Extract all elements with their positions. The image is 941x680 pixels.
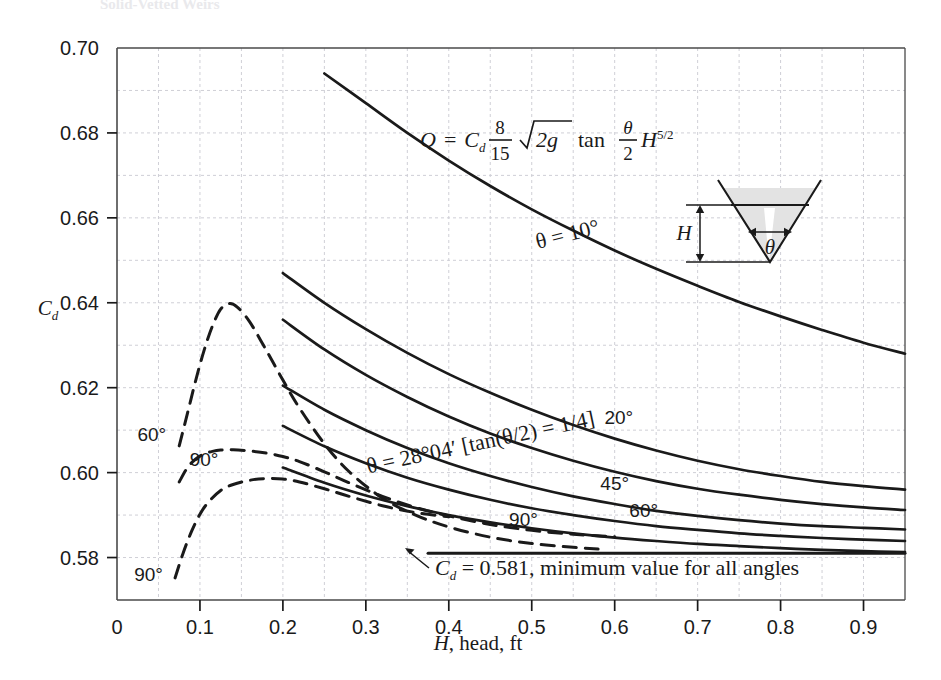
x-tick-label: 0.6 — [601, 616, 629, 638]
curve-label: 60° — [137, 424, 166, 445]
x-tick-label: 0.3 — [352, 616, 380, 638]
curve-label: 90° — [134, 564, 163, 585]
figure-stage: Solid-Vetted Weirs 0.580.600.620.640.660… — [0, 0, 941, 680]
svg-text:2g: 2g — [536, 127, 558, 152]
curve-theta-60-deg — [283, 426, 905, 541]
y-tick-label: 0.68 — [60, 122, 99, 144]
curve-label: 90° — [509, 509, 538, 530]
svg-text:H5/2: H5/2 — [640, 127, 674, 152]
svg-text:θ: θ — [623, 117, 632, 138]
y-tick-label: 0.58 — [60, 547, 99, 569]
x-tick-label: 0 — [111, 616, 122, 638]
x-tick-label: 0.7 — [684, 616, 712, 638]
inset-angle-label: θ — [765, 235, 775, 259]
y-tick-label: 0.70 — [60, 37, 99, 59]
y-tick-label: 0.64 — [60, 292, 99, 314]
y-tick-label: 0.66 — [60, 207, 99, 229]
svg-text:tan: tan — [578, 127, 605, 152]
curve-label: 45° — [600, 473, 629, 494]
svg-text:2: 2 — [623, 143, 633, 164]
x-tick-label: 0.9 — [850, 616, 878, 638]
svg-text:8: 8 — [495, 117, 505, 138]
y-axis-label: Cd — [38, 296, 59, 323]
x-tick-label: 0.8 — [767, 616, 795, 638]
inset-height-label: H — [675, 221, 693, 245]
x-tick-label: 0.1 — [186, 616, 214, 638]
x-axis-label: H, head, ft — [433, 631, 523, 655]
svg-text:15: 15 — [491, 143, 510, 164]
curve-label: 90° — [190, 449, 219, 470]
min-value-note: Cd = 0.581, minimum value for all angles — [435, 555, 799, 583]
curve-label: 20° — [604, 407, 633, 428]
curve-labels: θ = 10°20°θ = 28°04′ [tan(θ/2) = 1/4]45°… — [134, 214, 658, 585]
discharge-equation: Q=Cd 8 15 2g tan θ 2 H5/2 — [420, 117, 674, 164]
chart-svg: 0.580.600.620.640.660.680.7000.10.20.30.… — [0, 0, 941, 680]
svg-text:Q=Cd: Q=Cd — [420, 127, 486, 155]
curve-label: θ = 28°04′ [tan(θ/2) = 1/4] — [364, 406, 597, 479]
x-tick-label: 0.2 — [269, 616, 297, 638]
curve-label: 60° — [629, 500, 658, 521]
curve-label: θ = 10° — [533, 214, 602, 254]
y-tick-label: 0.62 — [60, 377, 99, 399]
y-tick-label: 0.60 — [60, 462, 99, 484]
